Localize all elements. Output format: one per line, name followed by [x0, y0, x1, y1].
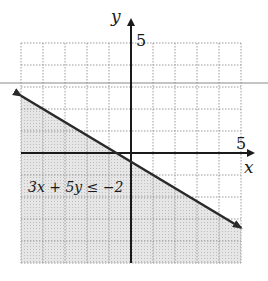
inequality-label: 3x + 5y ≤ −2 — [28, 179, 124, 195]
x-axis-label: x — [244, 157, 254, 177]
inequality-graph: y 5 5 x 3x + 5y ≤ −2 — [0, 0, 268, 281]
x-tick-label-5: 5 — [236, 134, 246, 153]
y-tick-label-5: 5 — [136, 31, 146, 50]
plot-area: y 5 5 x 3x + 5y ≤ −2 — [0, 0, 268, 281]
y-axis-label: y — [110, 6, 121, 26]
